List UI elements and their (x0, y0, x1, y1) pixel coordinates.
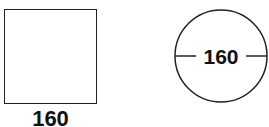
square-shape (4, 9, 97, 104)
circle-shape: 160 (172, 6, 269, 106)
square-side-label: 160 (4, 108, 97, 127)
circle-diameter-label: 160 (203, 45, 238, 68)
